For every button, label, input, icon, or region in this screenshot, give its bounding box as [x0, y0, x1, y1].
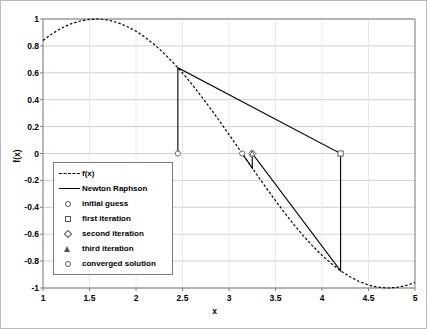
y-tick-label: -0.8: [9, 256, 39, 266]
legend-label: initial guess: [82, 198, 128, 210]
triangle-marker-key-glyph: [64, 246, 70, 252]
x-tick-label: 5: [395, 293, 427, 303]
marker-initial-guess: [175, 151, 180, 156]
legend-label: third iteration: [82, 243, 134, 255]
square-marker-key-glyph: [65, 216, 71, 222]
x-tick-label: 4.5: [349, 293, 389, 303]
y-tick-label: 0.6: [9, 68, 39, 78]
y-tick-label: 0.2: [9, 122, 39, 132]
chart-legend: f(x)Newton Raphsoninitial guessfirst ite…: [53, 162, 173, 275]
x-tick-label: 2.5: [163, 293, 203, 303]
solid-line-key-glyph: [59, 188, 80, 189]
y-axis-title: f(x): [12, 136, 22, 176]
circle-marker-key-glyph: [65, 201, 71, 207]
legend-entry: first iteration: [58, 211, 168, 226]
x-tick-label: 1.5: [70, 293, 110, 303]
legend-label: second iteration: [82, 228, 144, 240]
marker-converged-solution: [240, 151, 245, 156]
dash-line-key-glyph: [59, 173, 80, 174]
square-marker-key: [58, 213, 82, 225]
x-tick-label: 1: [23, 293, 63, 303]
legend-entry: initial guess: [58, 196, 168, 211]
circle-marker-key: [58, 258, 82, 270]
x-tick-label: 2: [116, 293, 156, 303]
circle-marker-key: [58, 198, 82, 210]
legend-label: f(x): [82, 168, 94, 180]
chart-figure: 10.80.60.40.20-0.2-0.4-0.6-0.8-1 11.522.…: [0, 0, 427, 329]
triangle-marker-key: [58, 243, 82, 255]
y-tick-label: -0.6: [9, 229, 39, 239]
marker-first-iteration: [338, 151, 343, 156]
legend-entry: f(x): [58, 166, 168, 181]
legend-entry: converged solution: [58, 256, 168, 271]
x-axis-title: x: [1, 306, 427, 316]
legend-entry: Newton Raphson: [58, 181, 168, 196]
legend-label: converged solution: [82, 258, 156, 270]
y-tick-label: 0.4: [9, 95, 39, 105]
y-tick-label: -0.4: [9, 202, 39, 212]
y-tick-label: -1: [9, 283, 39, 293]
x-tick-label: 3.5: [256, 293, 296, 303]
circle-marker-key-glyph: [65, 261, 71, 267]
diamond-marker-key-glyph: [64, 229, 72, 237]
solid-line-key: [58, 183, 82, 195]
legend-entry: third iteration: [58, 241, 168, 256]
y-tick-label: 0.8: [9, 41, 39, 51]
dash-line-key: [58, 168, 82, 180]
legend-label: first iteration: [82, 213, 131, 225]
x-tick-label: 4: [302, 293, 342, 303]
legend-entry: second iteration: [58, 226, 168, 241]
y-tick-label: 1: [9, 14, 39, 24]
diamond-marker-key: [58, 228, 82, 240]
y-tick-label: -0.2: [9, 175, 39, 185]
legend-label: Newton Raphson: [82, 183, 147, 195]
x-tick-label: 3: [209, 293, 249, 303]
